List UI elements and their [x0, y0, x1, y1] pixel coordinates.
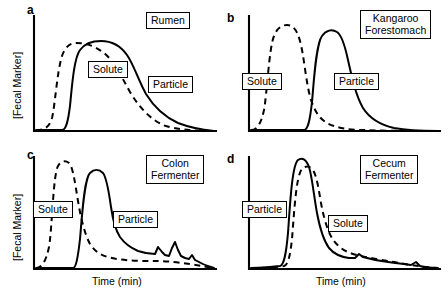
panel-a-rumen: a [Fecal Marker] Rumen Solute Particle: [0, 0, 224, 149]
panel-d-x-axis-label: Time (min): [316, 276, 366, 287]
panel-c-solute-label: Solute: [33, 201, 73, 218]
panel-c-colon-fermenter: c [Fecal Marker] Time (min) Colon Fermen…: [0, 149, 224, 298]
panel-b-solute-label: Solute: [242, 73, 282, 90]
panel-c-particle-label: Particle: [113, 211, 158, 228]
panel-c-x-axis-label: Time (min): [92, 276, 142, 287]
figure-root: a [Fecal Marker] Rumen Solute Particle b…: [0, 0, 448, 298]
panel-d-letter: d: [227, 153, 234, 165]
panel-b-particle-label: Particle: [334, 73, 379, 90]
panel-c-letter: c: [27, 149, 34, 161]
panel-a-title-tag: Rumen: [146, 12, 190, 29]
panel-a-solute-label: Solute: [88, 61, 128, 78]
panel-b-title-tag: Kangaroo Forestomach: [360, 10, 431, 39]
panel-a-particle-label: Particle: [148, 76, 193, 93]
panel-d-title-tag: Cecum Fermenter: [360, 155, 418, 184]
panel-a-y-axis-label: [Fecal Marker]: [12, 52, 23, 119]
panel-c-title-tag: Colon Fermenter: [146, 155, 204, 184]
panel-b-letter: b: [227, 12, 234, 24]
panel-a-letter: a: [27, 4, 34, 16]
panel-d-cecum-fermenter: d Time (min) Cecum Fermenter Particle So…: [224, 149, 448, 298]
panel-d-particle-label: Particle: [242, 201, 287, 218]
panel-c-y-axis-label: [Fecal Marker]: [12, 194, 23, 261]
panel-b-kangaroo-forestomach: b Kangaroo Forestomach Solute Particle: [224, 0, 448, 149]
panel-d-solute-label: Solute: [328, 215, 368, 232]
